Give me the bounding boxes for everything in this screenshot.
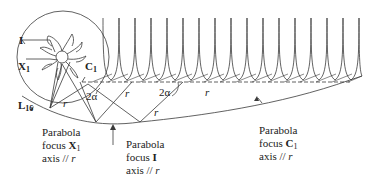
label-L16: L16 xyxy=(18,99,33,112)
segment-label-r-3: r xyxy=(154,106,158,119)
impeller-blades xyxy=(40,34,86,80)
label-C1: C1 xyxy=(85,60,97,73)
annotation-parabola-focus-i: Parabola focus I axis // r xyxy=(126,138,164,177)
hub-circle xyxy=(56,51,68,63)
parabola-reflector-diagram: I X1 C1 L16 2α 2α r r r r Parabola focus… xyxy=(0,0,380,179)
segment-label-r-2: r xyxy=(125,87,129,100)
angle-label-2alpha-right: 2α xyxy=(159,86,170,99)
angle-label-2alpha-left: 2α xyxy=(86,90,97,103)
cusp-array xyxy=(92,18,362,82)
label-I: I xyxy=(19,34,23,47)
label-X1: X1 xyxy=(18,60,30,73)
annotation-parabola-focus-x1: Parabola focus X1 axis // r xyxy=(42,126,81,165)
segment-label-r-1: r xyxy=(63,97,67,110)
annotation-parabola-focus-c1: Parabola focus C1 axis // r xyxy=(259,124,298,163)
segment-label-r-4: r xyxy=(205,86,209,99)
